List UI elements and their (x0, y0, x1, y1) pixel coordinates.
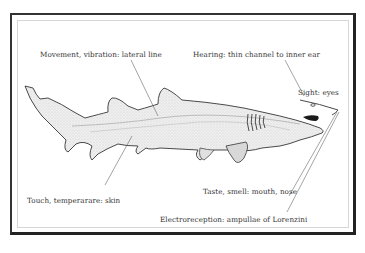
mouth (303, 115, 319, 121)
pectoral-fin (226, 142, 248, 163)
label-lateral-line: Movement, vibration: lateral line (40, 50, 162, 59)
label-sight: Sight: eyes (298, 88, 339, 97)
shark-body (25, 86, 323, 160)
label-hearing: Hearing: thin channel to inner ear (193, 50, 320, 59)
eye (311, 104, 315, 107)
label-taste-smell: Taste, smell: mouth, nose (203, 187, 297, 196)
leader-lateral-line (131, 60, 158, 116)
label-electroreception: Electroreception: ampullae of Lorenzini (160, 215, 307, 224)
label-touch: Touch, temperarare: skin (27, 196, 120, 205)
pelvic-fin (200, 148, 215, 160)
